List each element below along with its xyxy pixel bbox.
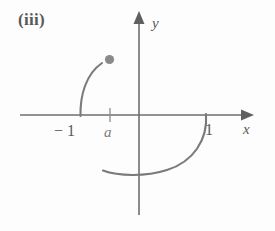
tick-label-minus-one: − 1 xyxy=(54,122,75,139)
filled-endpoint-dot xyxy=(105,55,114,64)
y-axis-label: y xyxy=(150,15,159,31)
tick-label-one: 1 xyxy=(205,121,213,138)
x-axis-arrowhead xyxy=(241,110,254,121)
graph-canvas: y x − 1 a 1 xyxy=(0,0,275,231)
y-axis-arrowhead xyxy=(134,11,145,24)
lower-right-arc xyxy=(103,114,206,175)
tick-label-a: a xyxy=(104,124,112,140)
figure-panel: (iii) y x − 1 a 1 xyxy=(0,0,275,231)
x-axis-label: x xyxy=(242,121,250,137)
upper-left-arc xyxy=(80,63,102,116)
